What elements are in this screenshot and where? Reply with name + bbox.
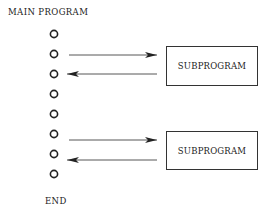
subprogram-box-1: SUBPROGRAM [166,46,258,86]
step-circle [50,50,57,57]
step-circle [50,150,57,157]
step-circle [50,90,57,97]
step-circles [50,30,57,177]
step-circle [50,110,57,117]
flow-diagram [0,0,272,216]
step-circle [50,170,57,177]
step-circle [50,30,57,37]
step-circle [50,70,57,77]
step-circle [50,130,57,137]
subprogram-box-2: SUBPROGRAM [166,131,258,170]
end-label: END [45,196,67,206]
